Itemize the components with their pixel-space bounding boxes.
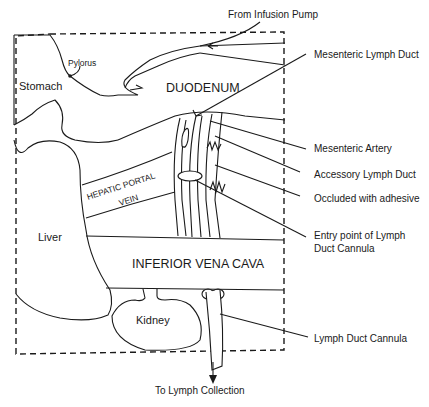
lymph-collection-label: To Lymph Collection: [155, 385, 245, 396]
pylorus-label: Pylorus: [68, 58, 96, 68]
accessory-lymph-duct-label: Accessory Lymph Duct: [314, 169, 416, 180]
stomach-label: Stomach: [19, 80, 62, 92]
anatomy-diagram: Stomach Pylorus DUODENUM HEPATIC PORTAL …: [0, 0, 429, 407]
inferior-vena-cava-label: INFERIOR VENA CAVA: [132, 257, 265, 271]
mesenteric-artery-label: Mesenteric Artery: [314, 143, 392, 154]
liver-label: Liver: [38, 231, 62, 243]
lymph-duct-cannula-label: Lymph Duct Cannula: [314, 333, 407, 344]
liver-organ: [14, 140, 112, 320]
kidney-label: Kidney: [136, 314, 170, 326]
pylorus-dot: [68, 74, 72, 78]
duodenum-label: DUODENUM: [166, 81, 240, 95]
infusion-pump-label: From Infusion Pump: [228, 9, 318, 20]
mesenteric-lymph-duct-label: Mesenteric Lymph Duct: [314, 49, 419, 60]
lymph-duct-cannula: [202, 289, 224, 384]
occluded-label: Occluded with adhesive: [314, 193, 420, 204]
mesenteric-vessel-bundle: [174, 112, 225, 238]
entry-point-label-1: Entry point of Lymph: [314, 230, 405, 241]
infusion-tube: [200, 22, 260, 46]
entry-point-label-2: Duct Cannula: [314, 243, 375, 254]
